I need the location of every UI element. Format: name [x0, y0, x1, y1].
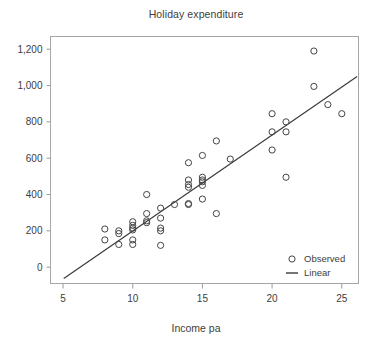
y-axis: 02004006008001,0001,200	[17, 44, 50, 273]
x-tick-label: 25	[336, 293, 348, 304]
scatter-plot: 02004006008001,0001,200 510152025 Observ…	[0, 0, 392, 348]
x-tick-label: 10	[127, 293, 139, 304]
legend-label: Observed	[304, 253, 345, 264]
legend-label: Linear	[304, 267, 330, 278]
x-tick-label: 15	[197, 293, 209, 304]
chart-container: Holiday expenditure 02004006008001,0001,…	[0, 0, 392, 348]
x-tick-label: 20	[267, 293, 279, 304]
x-axis-label: Income pa	[0, 322, 392, 334]
y-tick-label: 400	[26, 189, 43, 200]
y-tick-label: 0	[37, 262, 43, 273]
x-axis: 510152025	[60, 284, 348, 304]
plot-frame	[51, 37, 359, 284]
y-tick-label: 800	[26, 116, 43, 127]
y-tick-label: 600	[26, 153, 43, 164]
y-tick-label: 200	[26, 225, 43, 236]
x-tick-label: 5	[60, 293, 66, 304]
y-tick-label: 1,200	[17, 44, 42, 55]
y-tick-label: 1,000	[17, 80, 42, 91]
